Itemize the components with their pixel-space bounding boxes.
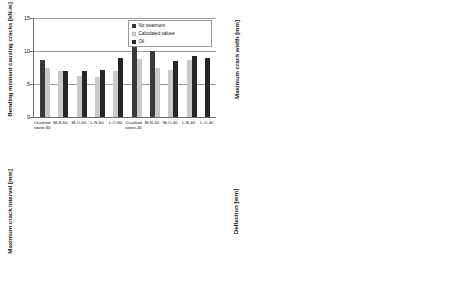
bar	[205, 58, 210, 117]
panel-deflection: Deflection [mm] Crushed stone-60M-60L-60…	[227, 152, 454, 304]
legend-label: No treatment	[139, 23, 166, 28]
legend-swatch-icon	[132, 24, 136, 28]
x-axis-tick-label: M-O-60	[70, 120, 88, 131]
legend-bending-moment: No treatmentCalculated valuesOil	[128, 20, 212, 47]
bar	[82, 71, 87, 117]
bar	[155, 68, 160, 118]
y-axis-tick-mark	[30, 84, 33, 85]
x-axis-tick-label: L-O-40	[198, 120, 216, 131]
y-axis-title-crack-width: Maximum crack width [mm]	[229, 0, 243, 118]
bar	[137, 59, 142, 117]
x-axis-tick-label: M-N-60	[51, 120, 69, 131]
bar	[63, 71, 68, 117]
x-axis-tick-label: L-O-60	[106, 120, 124, 131]
legend-label: Calculated values	[139, 31, 175, 36]
legend-label: Oil	[139, 39, 145, 44]
x-axis-labels-bending-moment: Crushed stone-60M-N-60M-O-60L-N-60L-O-60…	[33, 120, 216, 131]
y-axis-tick-mark	[30, 51, 33, 52]
bar-group	[95, 18, 105, 117]
x-axis-tick-label: Crushed stone-60	[33, 120, 51, 131]
x-axis-tick-label: Crushed stone-40	[124, 120, 142, 131]
y-axis-tick-mark	[30, 18, 33, 19]
panel-crack-width: Maximum crack width [mm] Crushed stone-6…	[227, 0, 454, 152]
y-axis-tick-label: 0	[8, 114, 30, 120]
bar	[192, 56, 197, 117]
x-axis-tick-label: L-N-40	[179, 120, 197, 131]
y-axis-tick-label: 10	[8, 48, 30, 54]
bar	[118, 58, 123, 117]
x-axis-tick-label: M-N-40	[143, 120, 161, 131]
bar	[173, 61, 178, 117]
bar	[100, 70, 105, 117]
panel-bending-moment: Bending moment causing cracks [kN.m] Cru…	[0, 0, 227, 152]
bar-group	[58, 18, 68, 117]
bar	[45, 68, 50, 118]
bar-group	[40, 18, 50, 117]
y-axis-tick-label: 15	[8, 15, 30, 21]
legend-item: Oil	[132, 39, 208, 44]
figure-grid: Bending moment causing cracks [kN.m] Cru…	[0, 0, 454, 304]
y-axis-tick-mark	[30, 117, 33, 118]
bar-group	[77, 18, 87, 117]
bar-group	[113, 18, 123, 117]
legend-swatch-icon	[132, 32, 136, 36]
y-axis-tick-label: 5	[8, 81, 30, 87]
panel-crack-interval: Maximum crack interval [mm] Crushed ston…	[0, 152, 227, 304]
legend-item: Calculated values	[132, 31, 208, 36]
y-axis-title-crack-interval: Maximum crack interval [mm]	[2, 152, 16, 270]
x-axis-tick-label: L-N-60	[88, 120, 106, 131]
legend-item: No treatment	[132, 23, 208, 28]
x-axis-tick-label: M-O-40	[161, 120, 179, 131]
legend-swatch-icon	[132, 40, 136, 44]
y-axis-title-deflection: Deflection [mm]	[229, 152, 243, 270]
